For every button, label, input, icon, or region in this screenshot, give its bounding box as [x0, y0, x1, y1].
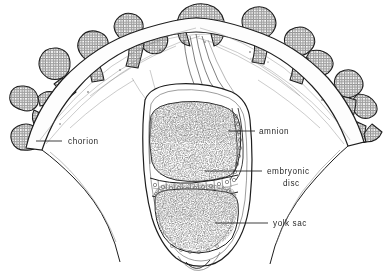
- label-chorion-text: chorion: [68, 137, 99, 146]
- villus: [39, 48, 70, 80]
- label-embryonic-disc-text: embryonic: [267, 167, 310, 176]
- label-yolk-sac-text: yolk sac: [273, 219, 307, 228]
- label-amnion-text: amnion: [259, 127, 289, 136]
- embryo-chorionic-vesicle-diagram: chorion amnion embryonic disc yolk sac: [0, 0, 390, 274]
- label-embryonic-disc-text-line2: disc: [283, 179, 300, 188]
